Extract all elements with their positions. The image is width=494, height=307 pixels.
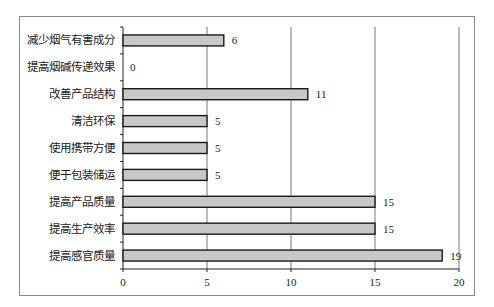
bar-group: 改善产品结构11 bbox=[49, 87, 326, 101]
value-label: 5 bbox=[215, 115, 221, 127]
category-label: 减少烟气有害成分 bbox=[27, 33, 116, 47]
x-tick-label: 5 bbox=[204, 276, 210, 288]
x-tick-label: 10 bbox=[286, 276, 298, 288]
bar-group: 提高烟碱传递效果0 bbox=[27, 60, 136, 74]
value-label: 5 bbox=[215, 169, 221, 181]
bar-group: 使用携带方便5 bbox=[49, 141, 221, 155]
category-label: 提高生产效率 bbox=[49, 222, 115, 236]
category-label: 使用携带方便 bbox=[49, 141, 116, 155]
category-label: 便于包装储运 bbox=[49, 168, 116, 182]
value-label: 15 bbox=[383, 196, 395, 208]
x-tick-label: 15 bbox=[370, 276, 382, 288]
bar bbox=[123, 169, 207, 180]
bar bbox=[123, 196, 375, 207]
bar bbox=[123, 223, 375, 234]
bar bbox=[123, 116, 207, 127]
x-tick-label: 20 bbox=[454, 276, 466, 288]
bar bbox=[123, 143, 207, 154]
value-label: 11 bbox=[316, 88, 327, 100]
category-label: 提高感官质量 bbox=[49, 249, 115, 263]
bar-group: 便于包装储运5 bbox=[49, 168, 221, 182]
bar-group: 减少烟气有害成分6 bbox=[27, 33, 238, 47]
bar bbox=[123, 250, 442, 261]
x-tick-label: 0 bbox=[120, 276, 126, 288]
value-label: 15 bbox=[383, 223, 395, 235]
value-label: 5 bbox=[215, 142, 221, 154]
category-label: 改善产品结构 bbox=[49, 87, 115, 101]
bar-group: 提高感官质量19 bbox=[49, 249, 462, 263]
category-label: 提高烟碱传递效果 bbox=[27, 60, 116, 74]
bar bbox=[123, 35, 224, 46]
category-label: 提高产品质量 bbox=[49, 195, 115, 209]
value-label: 0 bbox=[130, 61, 136, 73]
bar-group: 提高生产效率15 bbox=[49, 222, 395, 236]
bar bbox=[123, 89, 308, 100]
bar-group: 提高产品质量15 bbox=[49, 195, 395, 209]
bar-chart: 05101520减少烟气有害成分6提高烟碱传递效果0改善产品结构11清洁环保5使… bbox=[0, 0, 494, 307]
category-label: 清洁环保 bbox=[71, 114, 116, 128]
value-label: 6 bbox=[232, 34, 238, 46]
value-label: 19 bbox=[450, 250, 462, 262]
bar-group: 清洁环保5 bbox=[71, 114, 221, 128]
